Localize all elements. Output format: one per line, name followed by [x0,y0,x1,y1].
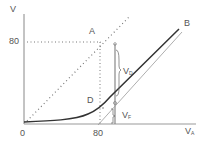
point-d-label: D [87,96,94,105]
y-tick-80: 80 [9,37,19,46]
vd-label: VD [123,67,133,76]
x-axis-label: VA [185,127,194,136]
tangent-line [98,32,182,125]
transfer-curve [24,29,179,122]
diagram-canvas [0,0,207,145]
x-tick-0: 0 [20,129,25,138]
y-axis-label: V [10,5,16,14]
point-b-label: B [184,19,190,28]
x-tick-80: 80 [93,129,103,138]
vf-label: VF [122,111,131,120]
vf-label-sub: F [128,114,131,120]
point-dot [102,107,103,108]
x-axis-label-sub: A [191,130,194,136]
vd-label-sub: D [129,70,133,76]
point-a-label: A [89,27,95,36]
